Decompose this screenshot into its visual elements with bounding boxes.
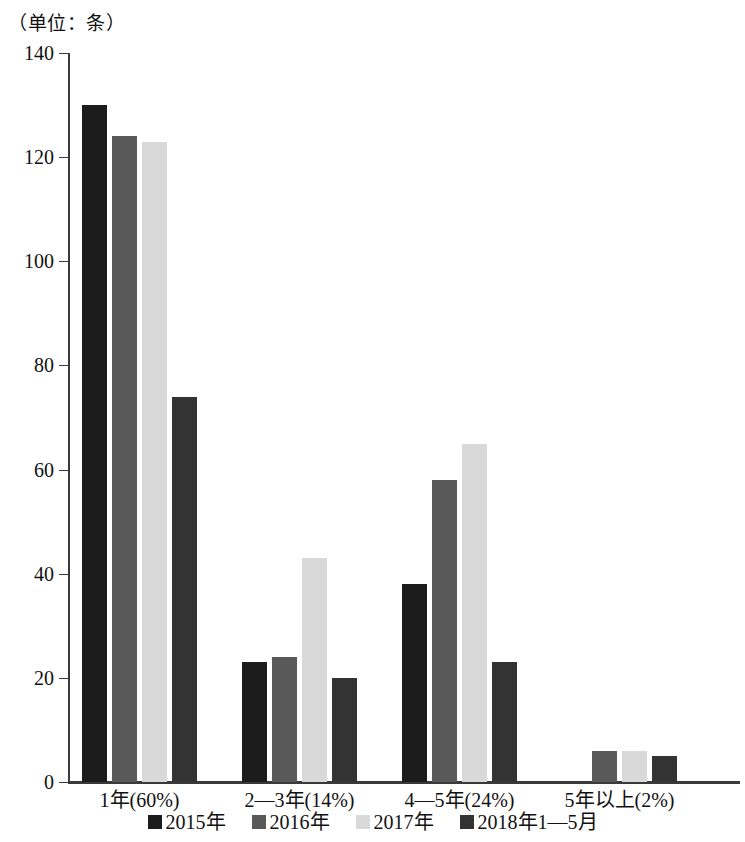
- y-axis-tick: [59, 365, 68, 366]
- y-axis-tick-label: 0: [44, 772, 54, 792]
- legend-label: 2017年: [374, 812, 434, 832]
- bar: [652, 756, 677, 782]
- bar-group: [562, 53, 682, 782]
- bar-group: [242, 53, 362, 782]
- bar: [462, 444, 487, 782]
- bar: [402, 584, 427, 782]
- bar: [112, 136, 137, 782]
- y-axis-tick-label: 60: [34, 460, 54, 480]
- y-axis-tick-label: 140: [24, 43, 54, 63]
- bar: [592, 751, 617, 782]
- y-axis-tick: [59, 782, 68, 783]
- legend-swatch-icon: [356, 815, 370, 829]
- legend-swatch-icon: [252, 815, 266, 829]
- y-axis-tick-label: 100: [24, 251, 54, 271]
- bar: [622, 751, 647, 782]
- bar-group: [402, 53, 522, 782]
- x-axis-category-label: 5年以上(2%): [500, 790, 740, 810]
- bar: [492, 662, 517, 782]
- legend-label: 2015年: [166, 812, 226, 832]
- y-axis-tick-label: 80: [34, 355, 54, 375]
- legend-label: 2018年1—5月: [478, 812, 598, 832]
- y-axis-tick: [59, 574, 68, 575]
- bar: [82, 105, 107, 782]
- bar: [432, 480, 457, 782]
- legend-item: 2016年: [252, 812, 330, 832]
- legend-label: 2016年: [270, 812, 330, 832]
- bar: [142, 142, 167, 782]
- y-axis-tick: [59, 157, 68, 158]
- bar: [242, 662, 267, 782]
- legend-item: 2018年1—5月: [460, 812, 598, 832]
- bar: [172, 397, 197, 782]
- bar: [302, 558, 327, 782]
- bar: [272, 657, 297, 782]
- y-axis-tick-label: 20: [34, 668, 54, 688]
- y-axis-line: [68, 53, 70, 782]
- y-axis-tick: [59, 678, 68, 679]
- bar-group: [82, 53, 202, 782]
- legend-item: 2015年: [148, 812, 226, 832]
- y-axis-tick-label: 40: [34, 564, 54, 584]
- y-axis-tick: [59, 53, 68, 54]
- legend-swatch-icon: [148, 815, 162, 829]
- y-axis-tick: [59, 470, 68, 471]
- legend-item: 2017年: [356, 812, 434, 832]
- chart-page: （单位：条） 020406080100120140 1年(60%)2—3年(14…: [0, 0, 745, 842]
- plot-area: 020406080100120140: [68, 53, 740, 782]
- legend-swatch-icon: [460, 815, 474, 829]
- y-axis-tick: [59, 261, 68, 262]
- chart-legend: 2015年2016年2017年2018年1—5月: [0, 812, 745, 832]
- bar: [332, 678, 357, 782]
- y-axis-unit-caption: （单位：条）: [8, 8, 125, 35]
- y-axis-tick-label: 120: [24, 147, 54, 167]
